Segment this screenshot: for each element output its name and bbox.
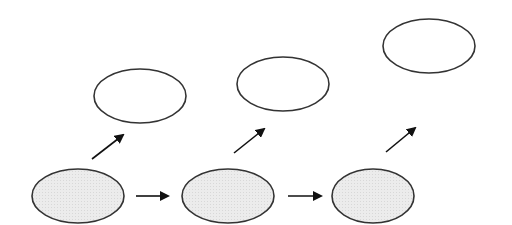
arrow-icon — [234, 129, 264, 153]
arrow-icon — [386, 128, 415, 152]
nodes — [32, 19, 475, 223]
node-top-1 — [94, 69, 186, 123]
node-bottom-3 — [332, 169, 414, 223]
node-top-3 — [383, 19, 475, 73]
arrow-icon — [92, 135, 123, 159]
node-bottom-2 — [182, 169, 274, 223]
node-bottom-1 — [32, 169, 124, 223]
flow-diagram — [0, 0, 512, 225]
node-top-2 — [237, 57, 329, 111]
